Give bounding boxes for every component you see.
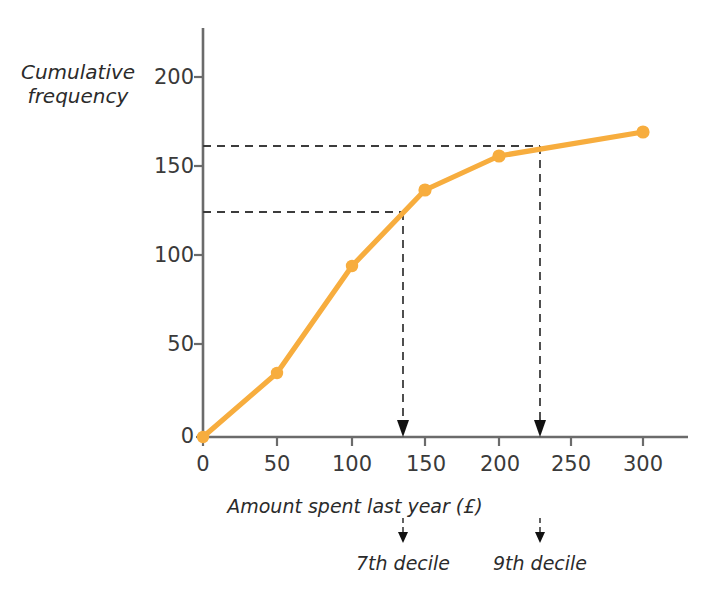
data-point-150 xyxy=(418,183,431,196)
series-markers xyxy=(197,125,650,443)
data-point-0 xyxy=(197,431,209,443)
series-line-cumulative-frequency xyxy=(203,132,643,437)
data-point-100 xyxy=(346,260,358,272)
arrowhead-callout-decile7 xyxy=(398,532,408,543)
arrowhead-callout-decile9 xyxy=(535,532,545,543)
chart-figure: Cumulative frequency 200 150 100 50 0 0 … xyxy=(0,0,707,593)
chart-canvas xyxy=(0,0,707,593)
data-point-200 xyxy=(492,149,505,162)
arrowhead-decile9-axis xyxy=(534,420,546,437)
data-point-300 xyxy=(636,125,649,138)
x-tick-marks xyxy=(203,437,643,446)
arrowhead-decile7-axis xyxy=(397,420,409,437)
data-point-50 xyxy=(271,367,283,379)
y-tick-marks xyxy=(194,77,203,437)
